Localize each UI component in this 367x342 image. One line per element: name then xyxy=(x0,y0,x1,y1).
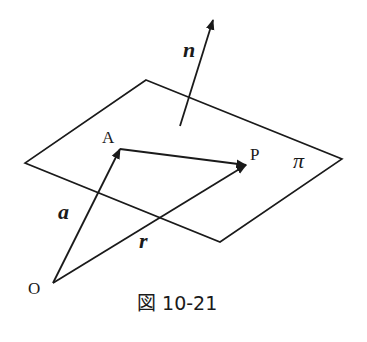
label-pi: π xyxy=(293,148,305,173)
normal-vector-n xyxy=(180,20,213,126)
label-p-point: P xyxy=(250,145,259,164)
label-vector-r: r xyxy=(139,228,148,253)
label-a-point: A xyxy=(102,128,115,147)
plane-vector-diagram: n A P π a r O 図 10-21 xyxy=(0,0,367,342)
label-vector-a: a xyxy=(58,199,69,224)
label-origin: O xyxy=(28,279,40,298)
vector-ap xyxy=(120,149,246,165)
figure-caption: 図 10-21 xyxy=(137,292,217,314)
label-n: n xyxy=(183,37,195,62)
